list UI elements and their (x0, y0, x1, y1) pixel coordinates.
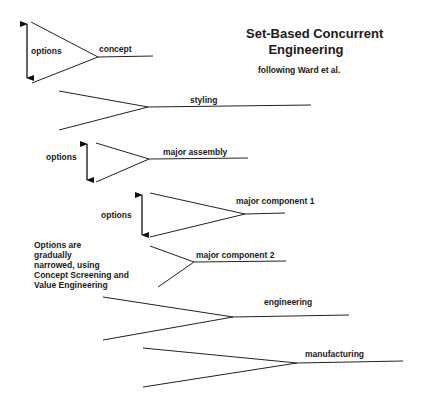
funnel-lines (0, 0, 426, 407)
note-line: Value Engineering (34, 280, 154, 290)
stage-label-major-component-2: major component 2 (196, 250, 274, 260)
note-line: Options are (34, 240, 154, 250)
stage-label-styling: styling (190, 95, 217, 105)
set-based-ce-diagram: Set-Based Concurrent Engineering followi… (0, 0, 426, 407)
styling-funnel (59, 91, 311, 130)
diagram-title: Set-Based Concurrent Engineering (246, 26, 366, 58)
stage-label-major-assembly: major assembly (163, 147, 227, 157)
note-line: Concept Screening and (34, 270, 154, 280)
stage-label-major-component-1: major component 1 (236, 196, 314, 206)
options-label: options (31, 46, 62, 56)
note-line: narrowed, using (34, 260, 154, 270)
title-line-1: Set-Based Concurrent (246, 26, 366, 42)
stage-label-engineering: engineering (264, 297, 312, 307)
stage-label-manufacturing: manufacturing (305, 349, 364, 359)
title-line-2: Engineering (246, 42, 366, 58)
stage-label-concept: concept (99, 44, 132, 54)
note-line: gradually (34, 250, 154, 260)
options-label: options (46, 152, 77, 162)
options-label: options (101, 210, 132, 220)
narrowing-note: Options are gradually narrowed, using Co… (34, 240, 154, 290)
subtitle: following Ward et al. (258, 65, 340, 75)
